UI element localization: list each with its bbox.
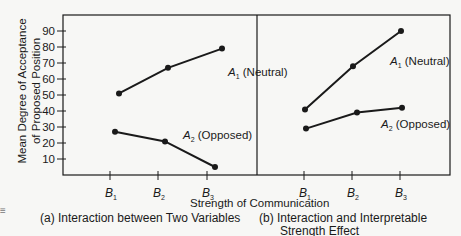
series-line xyxy=(119,49,222,94)
caption-b-line1: (b) Interaction and Interpretable xyxy=(259,211,427,225)
data-point xyxy=(350,63,356,69)
data-point xyxy=(165,65,171,71)
data-point xyxy=(399,105,405,111)
data-point xyxy=(303,126,309,132)
menu-icon: ≡ xyxy=(0,205,6,216)
data-point xyxy=(162,138,168,144)
legend-a2-right: A2 (Opposed) xyxy=(381,118,450,132)
y-axis-label-line2: of Proposed Position xyxy=(30,11,42,171)
data-point xyxy=(212,164,218,170)
data-point xyxy=(219,46,225,52)
data-point xyxy=(116,90,122,96)
legend-a2-left: A2 (Opposed) xyxy=(183,129,252,143)
x-axis-label: Strength of Communication xyxy=(190,197,329,209)
caption-a: (a) Interaction between Two Variables xyxy=(40,211,240,225)
data-point xyxy=(302,106,308,112)
legend-a1-left: A1 (Neutral) xyxy=(228,66,288,80)
legend-a1-right: A1 (Neutral) xyxy=(390,55,450,69)
data-point xyxy=(112,129,118,135)
data-point xyxy=(354,110,360,116)
x-tick-label: B2 xyxy=(153,186,165,201)
y-axis-label-line1: Mean Degree of Acceptance xyxy=(16,11,28,171)
y-axis-label: Mean Degree of Acceptance of Proposed Po… xyxy=(4,20,48,170)
series-line xyxy=(305,31,401,109)
data-point xyxy=(398,28,404,34)
x-tick-label: B3 xyxy=(395,186,407,201)
x-tick-label: B2 xyxy=(347,186,359,201)
x-tick-label: B1 xyxy=(105,186,117,201)
caption-b-line2: Strength Effect xyxy=(280,224,359,236)
